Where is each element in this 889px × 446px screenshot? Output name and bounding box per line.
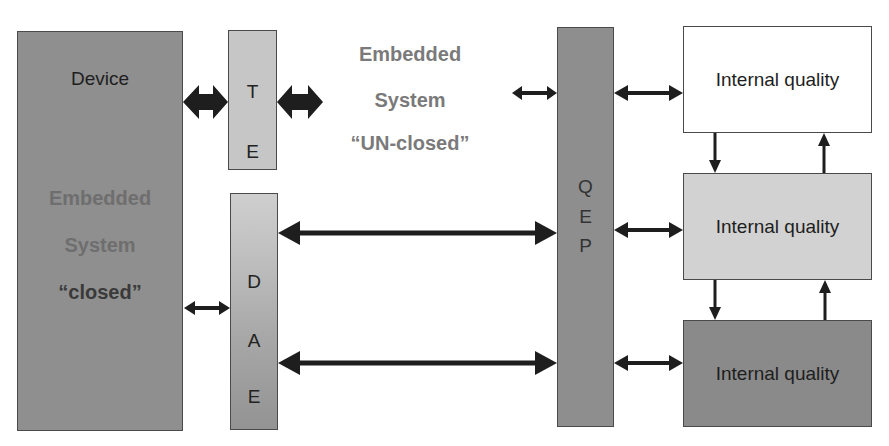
device-te-arrow-icon bbox=[183, 85, 228, 119]
dae-qep-upper-arrow-icon bbox=[278, 221, 557, 245]
device-dae-arrow-icon bbox=[184, 301, 230, 315]
te-right-arrow-icon bbox=[277, 85, 323, 119]
quality-bottom-to-middle-arrow-icon bbox=[819, 280, 831, 320]
unclosed-qep-arrow-icon bbox=[512, 86, 557, 100]
quality-middle-to-bottom-arrow-icon bbox=[709, 280, 721, 320]
qep-quality-bottom-arrow-icon bbox=[614, 355, 683, 371]
quality-top-to-middle-arrow-icon bbox=[709, 133, 721, 173]
qep-quality-middle-arrow-icon bbox=[614, 222, 683, 238]
quality-middle-to-top-arrow-icon bbox=[818, 133, 830, 173]
qep-quality-top-arrow-icon bbox=[614, 85, 683, 101]
dae-qep-lower-arrow-icon bbox=[278, 351, 557, 375]
arrows-layer bbox=[0, 0, 889, 446]
